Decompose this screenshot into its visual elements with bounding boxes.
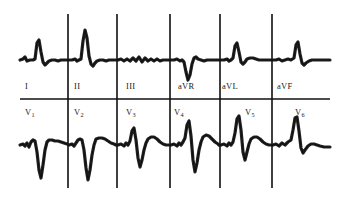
- lead-V4-label: V4: [174, 108, 184, 118]
- lead-aVF-label: aVF: [277, 82, 293, 91]
- lead-V6-label: V6: [295, 108, 305, 118]
- lead-V1-label: V1: [25, 108, 35, 118]
- lead-II-label: II: [74, 82, 80, 91]
- lead-V5-label: V5: [245, 108, 255, 118]
- lead-aVL-label: aVL: [222, 82, 238, 91]
- lead-III-label: III: [126, 82, 135, 91]
- ecg-waveform-canvas: [0, 0, 339, 199]
- lead-aVR-label: aVR: [178, 82, 194, 91]
- lead-V4-subscript: 4: [180, 111, 183, 118]
- lead-V2-subscript: 2: [80, 111, 83, 118]
- lead-V5-subscript: 5: [251, 111, 254, 118]
- lead-V6-subscript: 6: [301, 111, 304, 118]
- lead-V1-subscript: 1: [31, 111, 34, 118]
- lead-V3-subscript: 3: [132, 111, 135, 118]
- lead-V2-label: V2: [74, 108, 84, 118]
- lead-I-label: I: [25, 82, 28, 91]
- ecg-strip-page: IIIIIIaVRaVLaVFV1V2V3V4V5V6: [0, 0, 339, 199]
- lead-V3-label: V3: [126, 108, 136, 118]
